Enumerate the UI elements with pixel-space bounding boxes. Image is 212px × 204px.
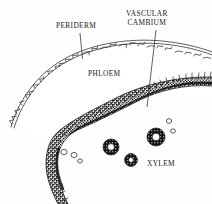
label-vascular-cambium-line2: CAMBIUM [126, 19, 168, 28]
phloem-region [14, 40, 212, 142]
diagram-canvas [0, 0, 212, 204]
xylem-vessel [125, 154, 138, 167]
label-phloem: PHLOEM [88, 70, 121, 79]
stem-cross-section-figure: PERIDERM VASCULAR CAMBIUM PHLOEM XYLEM [0, 0, 212, 204]
label-xylem: XYLEM [147, 160, 175, 169]
xylem-vessel [103, 139, 119, 155]
xylem-vessel [147, 128, 165, 146]
label-periderm: PERIDERM [56, 22, 96, 31]
label-vascular-cambium: VASCULAR CAMBIUM [126, 10, 168, 27]
